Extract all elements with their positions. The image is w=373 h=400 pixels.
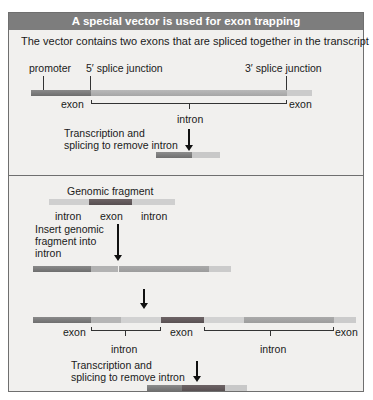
- insert-exon-right: [209, 266, 231, 272]
- intron-bracket-tick: [189, 104, 190, 109]
- intron-bracket-2: [204, 327, 334, 331]
- down-arrow-icon: [143, 289, 145, 304]
- down-arrow-icon: [188, 129, 190, 146]
- intron-label: intron: [177, 113, 203, 125]
- insert-exon-left: [33, 266, 91, 272]
- result-exon-label-1: exon: [63, 326, 86, 338]
- fragment-label-exon: exon: [100, 210, 123, 222]
- transcription-step-line1: Transcription and: [64, 127, 145, 139]
- intron-bracket-1: [91, 327, 161, 331]
- vector-caption: The vector contains two exons that are s…: [21, 35, 369, 47]
- fragment-label-intron-left: intron: [55, 210, 81, 222]
- insert-step-line3: intron: [35, 247, 61, 259]
- result-intron-a: [91, 317, 121, 323]
- fragment-intron-right: [132, 199, 175, 205]
- promoter-label: promoter: [29, 62, 71, 74]
- final-step-line1: Transcription and: [71, 359, 152, 371]
- panel-divider: [9, 175, 363, 176]
- result-intron-label-1: intron: [111, 343, 137, 355]
- vector-exon-right: [287, 90, 312, 96]
- vector-intron: [91, 90, 287, 96]
- transcription-step-line2: splicing to remove intron: [64, 139, 178, 151]
- mrna-exon-left: [156, 152, 192, 158]
- fragment-label-intron-right: intron: [141, 210, 167, 222]
- intron-bracket-2-tick: [270, 331, 271, 336]
- result-trapped-exon: [161, 317, 204, 323]
- insert-intron-b: [119, 266, 209, 272]
- final-mrna-exon-left: [147, 385, 182, 391]
- fragment-exon: [89, 199, 132, 205]
- intron-bracket-1-tick: [125, 331, 126, 336]
- splice3-label: 3′ splice junction: [245, 62, 322, 74]
- final-step-line2: splicing to remove intron: [71, 371, 185, 383]
- final-mrna-trapped-exon: [182, 385, 225, 391]
- result-exon-vector-right: [334, 317, 356, 323]
- result-intron-c: [204, 317, 244, 323]
- result-intron-d: [244, 317, 334, 323]
- final-mrna-exon-right: [225, 385, 247, 391]
- insert-step-line1: Insert genomic: [35, 223, 104, 235]
- exon-right-label: exon: [289, 98, 312, 110]
- result-exon-vector-left: [33, 317, 91, 323]
- result-exon-label-2: exon: [170, 326, 193, 338]
- down-arrow-icon: [196, 361, 198, 377]
- down-arrow-icon: [117, 224, 119, 256]
- genomic-fragment-title: Genomic fragment: [67, 185, 153, 197]
- mrna-exon-right: [192, 152, 220, 158]
- fragment-intron-left: [49, 199, 89, 205]
- insert-step-line2: fragment into: [35, 235, 96, 247]
- figure-frame: A special vector is used for exon trappi…: [8, 12, 364, 392]
- result-intron-label-2: intron: [260, 343, 286, 355]
- result-intron-b: [121, 317, 161, 323]
- splice5-label: 5′ splice junction: [86, 62, 163, 74]
- figure-title: A special vector is used for exon trappi…: [9, 13, 363, 30]
- exon-left-label: exon: [61, 98, 84, 110]
- result-exon-label-3: exon: [335, 326, 358, 338]
- vector-exon-left: [31, 90, 91, 96]
- insert-intron-a: [91, 266, 118, 272]
